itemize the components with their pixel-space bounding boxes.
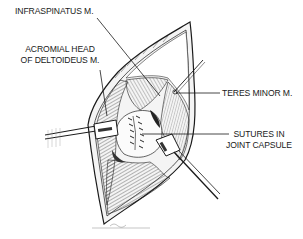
- label-teres-minor: TERES MINOR M.: [222, 88, 292, 99]
- label-acromial-head-line1: ACROMIAL HEAD: [14, 44, 106, 55]
- label-sutures-line2: JOINT CAPSULE: [222, 140, 296, 151]
- label-infraspinatus: INFRASPINATUS M.: [15, 6, 93, 17]
- label-sutures-line1: SUTURES IN: [222, 129, 296, 140]
- label-sutures: SUTURES IN JOINT CAPSULE: [222, 129, 296, 150]
- artist-signature: [92, 224, 150, 228]
- label-acromial-head-line2: OF DELTOIDEUS M.: [14, 55, 106, 66]
- label-acromial-head: ACROMIAL HEAD OF DELTOIDEUS M.: [14, 44, 106, 65]
- surgical-illustration: [0, 0, 303, 239]
